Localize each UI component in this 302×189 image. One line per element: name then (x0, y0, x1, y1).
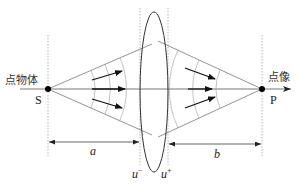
u-plus-label: u+ (161, 166, 172, 181)
object-symbol-label: S (35, 93, 42, 107)
left-propagation-arrows (92, 71, 125, 108)
arrow-up-icon (185, 97, 215, 108)
object-point-S (45, 86, 51, 92)
image-point-label: 点像 (268, 71, 290, 84)
lens (140, 12, 168, 172)
image-distance-label: b (214, 147, 220, 161)
arrow-down-icon (92, 99, 122, 108)
lens-imaging-diagram: 点物体 S 点像 P a b u− u+ (0, 0, 302, 189)
u-minus-label: u− (132, 166, 143, 181)
image-point-P (259, 86, 265, 92)
object-distance-label: a (90, 144, 96, 158)
arrow-up-icon (92, 71, 122, 80)
image-symbol-label: P (270, 93, 277, 107)
reference-lines (48, 8, 262, 165)
object-point-label: 点物体 (5, 73, 38, 87)
right-propagation-arrows (185, 68, 215, 108)
arrow-down-icon (185, 68, 215, 79)
